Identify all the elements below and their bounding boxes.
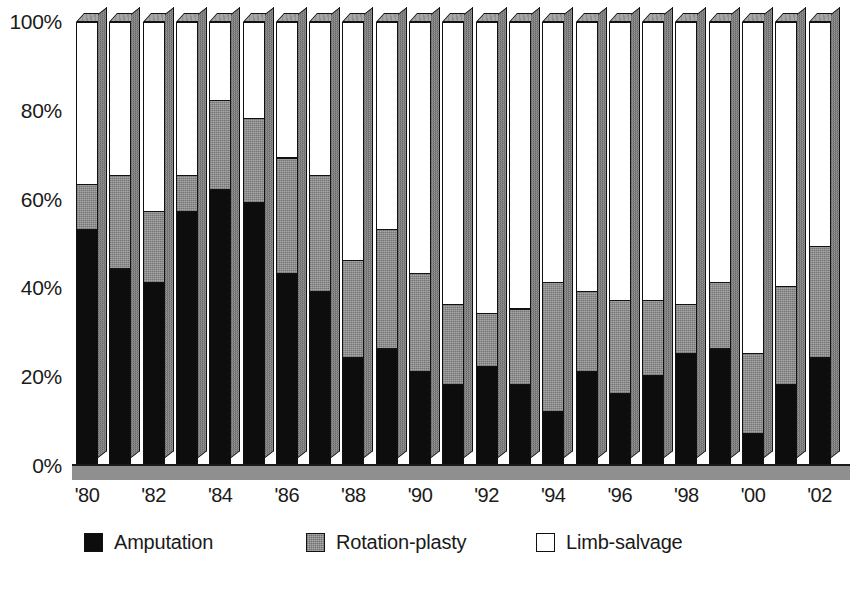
segment-limb-salvage (543, 22, 563, 283)
bar-side-face (731, 7, 740, 458)
segment-amputation (710, 350, 730, 465)
segment-limb-salvage (776, 22, 796, 287)
bar-column[interactable] (576, 22, 598, 466)
bar-column[interactable] (442, 22, 464, 466)
x-axis-tick-label: '86 (268, 484, 306, 506)
segment-rotation-plasty (144, 212, 164, 283)
bar-column[interactable] (742, 22, 764, 466)
bar-column[interactable] (109, 22, 131, 466)
bar-column[interactable] (243, 22, 265, 466)
bar-front-face (276, 22, 298, 466)
bar-front-face (243, 22, 265, 466)
segment-rotation-plasty (543, 283, 563, 412)
bar-side-face (464, 7, 473, 458)
bar-column[interactable] (509, 22, 531, 466)
bar-column[interactable] (775, 22, 797, 466)
y-axis-tick-label: 40% (21, 277, 62, 298)
bar-front-face (376, 22, 398, 466)
segment-amputation (377, 350, 397, 465)
segment-rotation-plasty (110, 176, 130, 269)
x-axis-tick-label: '92 (468, 484, 506, 506)
bar-side-face (531, 7, 540, 458)
segment-divider (810, 246, 830, 247)
bar-front-face (176, 22, 198, 466)
bar-side-face (664, 7, 673, 458)
bar-front-face (675, 22, 697, 466)
segment-divider (310, 291, 330, 292)
legend-item-label: Rotation-plasty (336, 532, 466, 552)
segment-rotation-plasty (177, 176, 197, 212)
segment-limb-salvage (810, 22, 830, 247)
segment-divider (110, 268, 130, 269)
segment-amputation (144, 283, 164, 465)
bar-side-face (165, 7, 174, 458)
segment-divider (743, 353, 763, 354)
bar-column[interactable] (209, 22, 231, 466)
segment-divider (144, 211, 164, 212)
gray-square-swatch (306, 533, 325, 552)
legend-item[interactable]: Amputation (84, 532, 213, 552)
white-square-swatch (536, 533, 555, 552)
segment-divider (477, 313, 497, 314)
segment-amputation (743, 434, 763, 465)
bar-side-face (364, 7, 373, 458)
x-axis-tick-label: '94 (534, 484, 572, 506)
bar-side-face (598, 7, 607, 458)
segment-limb-salvage (177, 22, 197, 176)
bar-column[interactable] (542, 22, 564, 466)
x-axis-tick-label: '90 (401, 484, 439, 506)
segment-limb-salvage (510, 22, 530, 310)
bar-column[interactable] (809, 22, 831, 466)
segment-amputation (543, 412, 563, 465)
segment-limb-salvage (110, 22, 130, 176)
bar-column[interactable] (709, 22, 731, 466)
bar-column[interactable] (309, 22, 331, 466)
bar-column[interactable] (276, 22, 298, 466)
segment-rotation-plasty (710, 283, 730, 350)
segment-amputation (610, 394, 630, 465)
bar-front-face (409, 22, 431, 466)
bar-side-face (231, 7, 240, 458)
segment-limb-salvage (410, 22, 430, 274)
segment-rotation-plasty (310, 176, 330, 291)
bar-front-face (209, 22, 231, 466)
segment-rotation-plasty (510, 310, 530, 385)
y-axis-tick-label: 60% (21, 189, 62, 210)
segment-divider (377, 348, 397, 349)
segment-divider (210, 100, 230, 101)
x-axis: '80'82'84'86'88'90'92'94'96'98'00'02 (72, 484, 850, 510)
segment-divider (177, 175, 197, 176)
bar-column[interactable] (675, 22, 697, 466)
bar-column[interactable] (176, 22, 198, 466)
segment-amputation (810, 358, 830, 465)
bar-column[interactable] (409, 22, 431, 466)
bar-column[interactable] (476, 22, 498, 466)
bar-side-face (697, 7, 706, 458)
segment-divider (510, 308, 530, 309)
segment-amputation (477, 367, 497, 465)
segment-amputation (343, 358, 363, 465)
x-axis-tick-label: '88 (334, 484, 372, 506)
segment-limb-salvage (377, 22, 397, 230)
bar-column[interactable] (342, 22, 364, 466)
legend-item[interactable]: Rotation-plasty (306, 532, 466, 552)
segment-divider (577, 371, 597, 372)
bar-column[interactable] (76, 22, 98, 466)
bar-column[interactable] (642, 22, 664, 466)
segment-divider (477, 366, 497, 367)
segment-divider (676, 353, 696, 354)
segment-amputation (776, 385, 796, 465)
segment-divider (643, 375, 663, 376)
segment-amputation (577, 372, 597, 465)
bar-column[interactable] (609, 22, 631, 466)
segment-divider (610, 300, 630, 301)
segment-limb-salvage (210, 22, 230, 101)
segment-divider (210, 189, 230, 190)
legend-item[interactable]: Limb-salvage (536, 532, 683, 552)
segment-rotation-plasty (477, 314, 497, 367)
bar-column[interactable] (376, 22, 398, 466)
segment-divider (643, 300, 663, 301)
bar-side-face (131, 7, 140, 458)
segment-limb-salvage (144, 22, 164, 212)
bar-column[interactable] (143, 22, 165, 466)
